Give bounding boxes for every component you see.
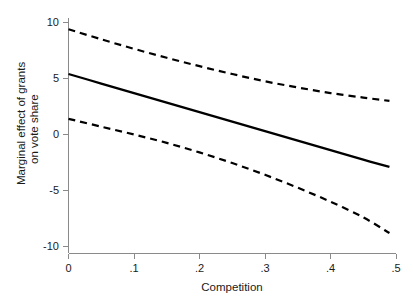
y-tick-label-5: 5 xyxy=(53,72,59,84)
y-tick-label-10: 10 xyxy=(47,16,59,28)
x-tick-label-0.3: .3 xyxy=(260,262,269,274)
x-tick-label-0.4: .4 xyxy=(326,262,335,274)
y-axis-ticks: 10 5 0 -5 -10 xyxy=(43,16,68,252)
x-tick-label-0.5: .5 xyxy=(391,262,400,274)
series-line-estimate xyxy=(69,74,390,167)
series-line-lower-ci xyxy=(69,119,390,233)
series-layer xyxy=(69,29,390,233)
y-tick-label-neg10: -10 xyxy=(43,240,59,252)
y-axis-title: Marginal effect of grants on vote share xyxy=(15,62,40,185)
y-axis-title-line1: Marginal effect of grants xyxy=(15,62,27,185)
y-axis-title-line2: on vote share xyxy=(28,94,40,164)
marginal-effects-plot: Marginal effect of grants on vote share … xyxy=(0,0,413,298)
series-line-upper-ci xyxy=(69,29,390,101)
y-tick-label-neg5: -5 xyxy=(49,184,59,196)
y-tick-label-0: 0 xyxy=(53,128,59,140)
x-tick-label-0: 0 xyxy=(65,262,71,274)
chart-container: Marginal effect of grants on vote share … xyxy=(0,0,413,298)
x-axis-title: Competition xyxy=(201,281,262,293)
x-axis-ticks: 0 .1 .2 .3 .4 .5 xyxy=(65,254,400,275)
x-tick-label-0.2: .2 xyxy=(195,262,204,274)
x-tick-label-0.1: .1 xyxy=(129,262,138,274)
